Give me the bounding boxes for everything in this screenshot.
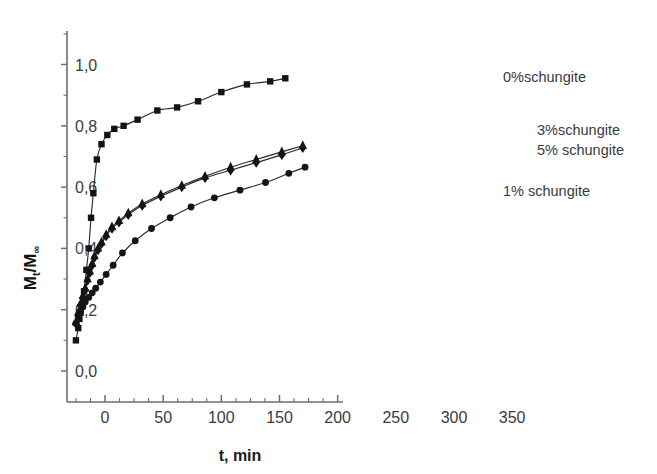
data-point-circle bbox=[119, 250, 126, 257]
x-tick-label-1: 50 bbox=[154, 409, 172, 426]
x-tick-label-4: 200 bbox=[324, 409, 351, 426]
data-point-circle bbox=[188, 204, 195, 211]
data-point-square bbox=[154, 107, 160, 113]
x-tick-label-0: 0 bbox=[101, 409, 110, 426]
data-point-square bbox=[282, 75, 288, 81]
data-point-circle bbox=[103, 271, 110, 278]
y-tick-label-5: 1,0 bbox=[75, 57, 97, 74]
y-tick-label-0: 0,0 bbox=[75, 363, 97, 380]
y-tick-label-4: 0,8 bbox=[75, 118, 97, 135]
data-point-square bbox=[88, 215, 94, 221]
data-point-square bbox=[267, 78, 273, 84]
data-point-square bbox=[174, 104, 180, 110]
data-point-circle bbox=[132, 237, 139, 244]
data-point-circle bbox=[237, 187, 244, 194]
data-point-square bbox=[90, 190, 96, 196]
data-point-circle bbox=[75, 314, 82, 321]
legend-label-2: 5% schungite bbox=[537, 142, 624, 158]
data-point-circle bbox=[110, 262, 117, 269]
chart-canvas: 050100150200250300350 0,00,20,40,60,81,0… bbox=[0, 0, 657, 474]
data-point-circle bbox=[285, 170, 292, 177]
data-point-circle bbox=[92, 285, 99, 292]
data-point-square bbox=[218, 89, 224, 95]
data-point-square bbox=[244, 81, 250, 87]
data-point-circle bbox=[302, 164, 309, 171]
y-axis-title-slash-m: /M bbox=[21, 254, 40, 273]
data-point-circle bbox=[148, 225, 155, 232]
x-tick-label-3: 150 bbox=[266, 409, 293, 426]
figure-container: 050100150200250300350 0,00,20,40,60,81,0… bbox=[0, 0, 657, 474]
data-point-square bbox=[195, 98, 201, 104]
data-point-square bbox=[73, 337, 79, 343]
y-axis-title-sub-infinity: ∞ bbox=[30, 246, 42, 254]
x-tick-label-5: 250 bbox=[382, 409, 409, 426]
data-point-circle bbox=[97, 279, 104, 286]
data-point-square bbox=[104, 132, 110, 138]
legend-label-1: 3%schungite bbox=[537, 122, 620, 138]
legend-label-3: 1% schungite bbox=[503, 183, 590, 199]
data-point-square bbox=[86, 245, 92, 251]
data-point-circle bbox=[73, 320, 80, 327]
x-tick-label-2: 100 bbox=[208, 409, 235, 426]
data-point-square bbox=[98, 141, 104, 147]
data-point-circle bbox=[167, 214, 174, 221]
legend-label-0: 0%schungite bbox=[503, 69, 586, 85]
data-point-circle bbox=[211, 194, 218, 201]
data-point-square bbox=[111, 126, 117, 132]
x-axis-title: t, min bbox=[219, 447, 262, 464]
data-point-square bbox=[134, 116, 140, 122]
y-axis-title-m: M bbox=[21, 276, 40, 290]
data-point-square bbox=[94, 156, 100, 162]
data-point-circle bbox=[262, 179, 269, 186]
x-tick-label-6: 300 bbox=[441, 409, 468, 426]
x-tick-label-7: 350 bbox=[499, 409, 526, 426]
data-point-square bbox=[120, 123, 126, 129]
